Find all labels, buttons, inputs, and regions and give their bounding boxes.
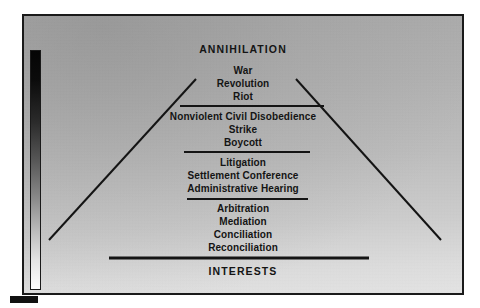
tier-item: Settlement Conference — [24, 171, 462, 182]
tier-consensual: Arbitration Mediation Conciliation Recon… — [24, 204, 462, 254]
tier-item: ANNIHILATION — [24, 44, 462, 55]
tier-item: Reconciliation — [24, 243, 462, 254]
tier-item: Revolution — [24, 79, 462, 90]
legend-swatch — [10, 296, 38, 303]
tier-interests: INTERESTS — [24, 266, 462, 277]
tier-item: Administrative Hearing — [24, 184, 462, 195]
tier-direct-action: Nonviolent Civil Disobedience Strike Boy… — [24, 112, 462, 149]
tier-item: War — [24, 66, 462, 77]
diagram-canvas: ANNIHILATION War Revolution Riot Nonviol… — [0, 0, 480, 308]
tier-item: Litigation — [24, 158, 462, 169]
tier-item: Arbitration — [24, 204, 462, 215]
tier-item: Boycott — [24, 138, 462, 149]
tier-item: Nonviolent Civil Disobedience — [24, 112, 462, 123]
tier-item: INTERESTS — [24, 266, 462, 277]
tier-adjudicative: Litigation Settlement Conference Adminis… — [24, 158, 462, 195]
tier-item: Riot — [24, 92, 462, 103]
diagram-frame: ANNIHILATION War Revolution Riot Nonviol… — [22, 14, 464, 295]
tier-annihilation: ANNIHILATION — [24, 44, 462, 55]
tier-violent-action: War Revolution Riot — [24, 66, 462, 103]
tier-item: Conciliation — [24, 230, 462, 241]
tier-item: Mediation — [24, 217, 462, 228]
tier-item: Strike — [24, 125, 462, 136]
